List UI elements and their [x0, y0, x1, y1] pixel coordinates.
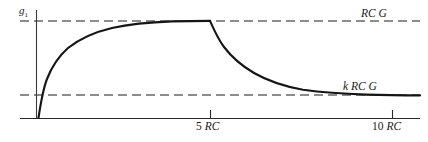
x-tick-5rc-unit: RC: [205, 120, 220, 132]
x-tick-5rc-number: 5: [196, 120, 202, 132]
chart-figure: g1 RC G k RC G 5 RC 10 RC: [0, 0, 428, 142]
y-axis-subscript: 1: [25, 11, 29, 19]
y-axis-value-label: g1: [19, 5, 28, 19]
x-tick-10rc-number: 10: [372, 120, 384, 132]
curve-charging-segment: [39, 21, 211, 118]
x-tick-label-10rc: 10 RC: [372, 121, 401, 133]
x-tick-10rc-unit: RC: [386, 120, 401, 132]
curve-discharging-segment: [210, 21, 420, 96]
asymptote-label-upper: RC G: [361, 8, 387, 20]
asymptote-label-lower: k RC G: [343, 81, 377, 93]
x-tick-label-5rc: 5 RC: [196, 121, 219, 133]
